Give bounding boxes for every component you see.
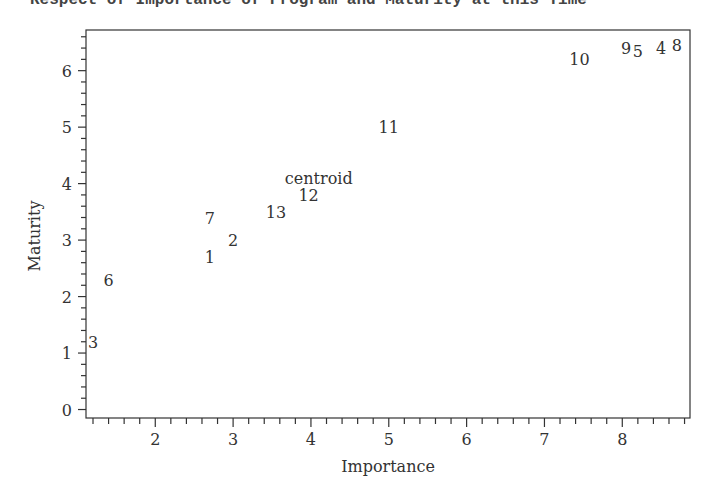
x-tick-label: 7 bbox=[539, 430, 549, 449]
point-label-2: 2 bbox=[228, 231, 238, 250]
point-label-13: 13 bbox=[266, 203, 286, 222]
point-label-1: 1 bbox=[205, 248, 215, 267]
scatter-chart: 0123456 2345678 361721312centroid1110954… bbox=[0, 0, 715, 504]
y-tick-label: 6 bbox=[62, 62, 72, 81]
x-tick-label: 6 bbox=[462, 430, 472, 449]
point-label-10: 10 bbox=[569, 50, 589, 69]
point-label-6: 6 bbox=[103, 271, 113, 290]
x-axis-title: Importance bbox=[341, 457, 435, 476]
y-axis-title: Maturity bbox=[25, 201, 44, 272]
centroid-label: centroid bbox=[285, 169, 353, 188]
point-label-7: 7 bbox=[205, 209, 215, 228]
plot-frame bbox=[86, 30, 690, 418]
point-label-5: 5 bbox=[633, 42, 643, 61]
plot-border bbox=[86, 30, 690, 418]
x-tick-label: 8 bbox=[617, 430, 627, 449]
x-tick-label: 4 bbox=[306, 430, 316, 449]
y-axis: 0123456 bbox=[62, 37, 86, 420]
point-labels: 361721312centroid11109548 bbox=[88, 36, 682, 352]
point-label-12: 12 bbox=[298, 186, 318, 205]
y-tick-label: 4 bbox=[62, 175, 72, 194]
point-label-3: 3 bbox=[88, 333, 98, 352]
y-tick-label: 5 bbox=[62, 118, 72, 137]
point-label-9: 9 bbox=[621, 39, 631, 58]
y-tick-label: 0 bbox=[62, 401, 72, 420]
point-label-4: 4 bbox=[656, 39, 666, 58]
y-tick-label: 2 bbox=[62, 288, 72, 307]
x-tick-label: 5 bbox=[384, 430, 394, 449]
point-label-8: 8 bbox=[672, 36, 682, 55]
point-label-11: 11 bbox=[379, 118, 399, 137]
x-tick-label: 3 bbox=[228, 430, 238, 449]
y-tick-label: 3 bbox=[62, 231, 72, 250]
y-tick-label: 1 bbox=[62, 344, 72, 363]
x-axis: 2345678 bbox=[93, 418, 685, 449]
x-tick-label: 2 bbox=[150, 430, 160, 449]
